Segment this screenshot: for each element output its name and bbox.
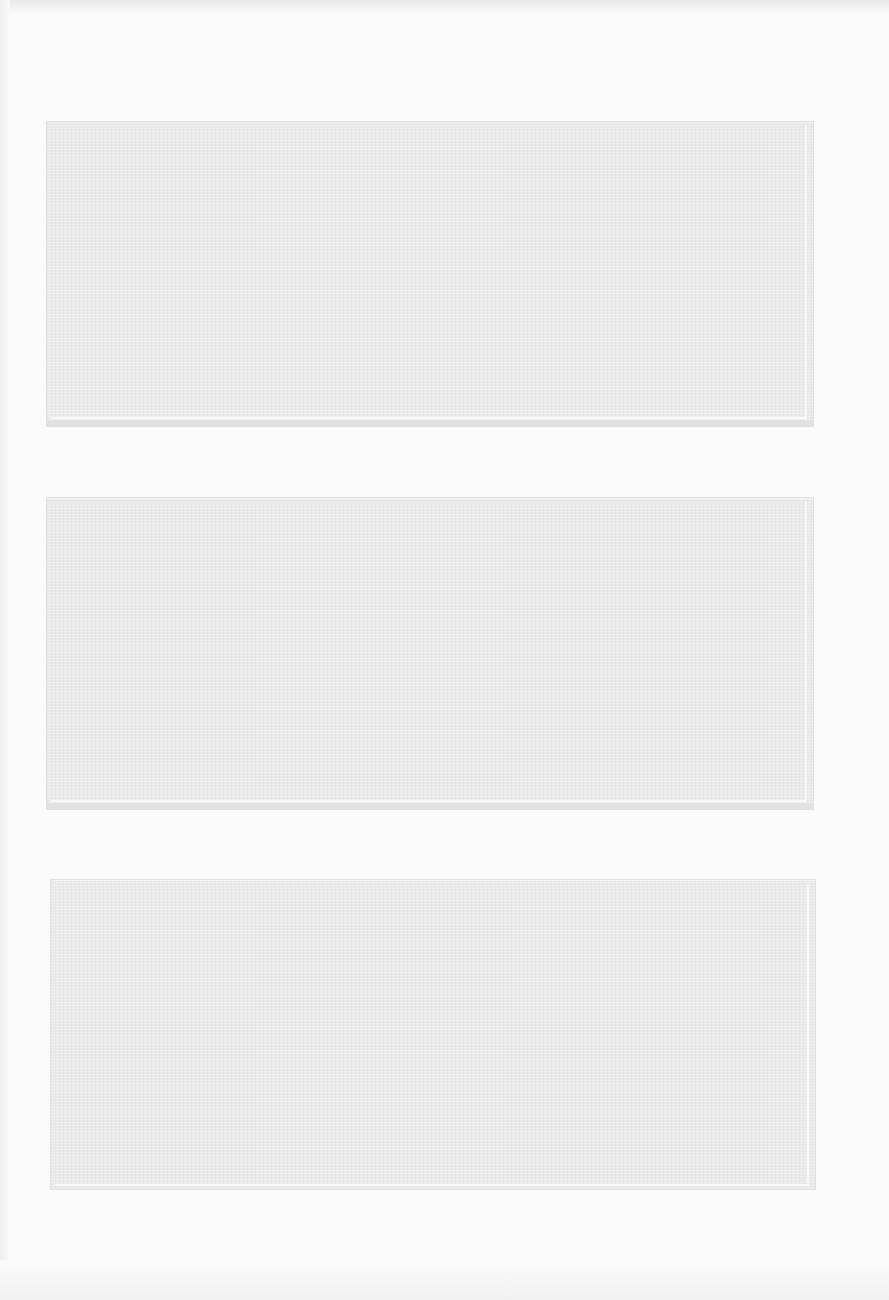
box-inner-line-vertical (807, 884, 809, 1183)
box-inner-line-vertical (805, 502, 807, 803)
box-bottom-strip (47, 420, 813, 426)
box-inner-line-horizontal (51, 417, 807, 419)
box-inner-line-horizontal (51, 800, 807, 802)
page-edge-left (0, 0, 10, 1300)
box-inner-line-vertical (805, 126, 807, 420)
box-inner-line-horizontal (55, 1184, 809, 1186)
blank-box-2 (46, 497, 814, 810)
blank-box-3 (50, 879, 816, 1190)
box-bottom-strip (47, 803, 813, 809)
blank-box-1 (46, 121, 814, 427)
page-edge-top (0, 0, 889, 14)
page-edge-bottom (0, 1260, 889, 1300)
